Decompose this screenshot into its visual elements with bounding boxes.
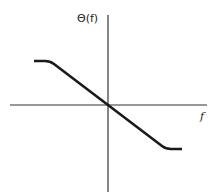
y-axis-label: Θ(f) [77, 12, 98, 25]
chart-canvas [0, 0, 219, 194]
phase-response-chart: Θ(f) f [0, 0, 219, 194]
x-axis-label: f [200, 110, 204, 123]
